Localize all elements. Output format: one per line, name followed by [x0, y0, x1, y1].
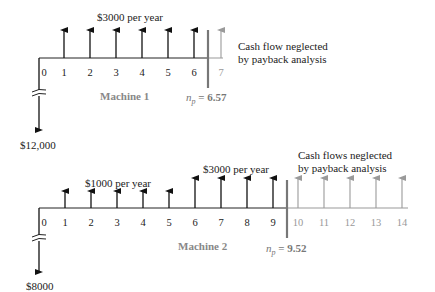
- payback-sub: p: [272, 248, 276, 257]
- payback-value: = 9.52: [278, 242, 306, 254]
- machine1-neglected-note: Cash flow neglected by payback analysis: [238, 40, 328, 66]
- note-line: Cash flows neglected: [298, 149, 392, 162]
- tick-label: 9: [270, 217, 275, 229]
- tick-label: 14: [397, 217, 408, 229]
- tick-label: 5: [165, 67, 170, 79]
- tick-label: 1: [62, 217, 67, 229]
- tick-label: 5: [166, 217, 171, 229]
- payback-sub: p: [192, 97, 196, 106]
- tick-label: 3: [114, 217, 119, 229]
- tick-label: 7: [218, 217, 223, 229]
- tick-label: 10: [293, 217, 304, 229]
- machine2-initial-cost-label: $8000: [26, 280, 54, 292]
- machine2-title: Machine 2: [178, 240, 227, 252]
- tick-label: 4: [139, 67, 144, 79]
- note-line: by payback analysis: [298, 162, 392, 175]
- machine2-neglected-note: Cash flows neglected by payback analysis: [298, 149, 392, 175]
- tick-label: 6: [192, 217, 197, 229]
- machine1-diagram: [32, 30, 223, 130]
- tick-label: 11: [319, 217, 329, 229]
- machine1-payback-label: np = 6.57: [186, 91, 227, 106]
- note-line: Cash flow neglected: [238, 40, 328, 53]
- tick-label: 7: [218, 67, 223, 79]
- machine1-initial-cost-label: $12,000: [20, 139, 56, 151]
- machine2-inflow-label-1000: $1000 per year: [85, 177, 151, 189]
- tick-label: 2: [88, 217, 93, 229]
- tick-label: 6: [191, 67, 196, 79]
- machine2-inflow-label-3000: $3000 per year: [203, 163, 269, 175]
- tick-label: 4: [140, 217, 145, 229]
- note-line: by payback analysis: [238, 53, 328, 66]
- tick-label: 12: [345, 217, 356, 229]
- machine1-title: Machine 1: [100, 90, 149, 102]
- tick-label: 0: [41, 67, 46, 79]
- machine2-payback-label: np = 9.52: [266, 242, 307, 257]
- axis-break-icon: [32, 234, 46, 241]
- tick-label: 1: [61, 67, 66, 79]
- tick-label: 3: [113, 67, 118, 79]
- tick-label: 13: [371, 217, 382, 229]
- tick-label: 0: [41, 217, 46, 229]
- axis-break-icon: [32, 89, 46, 96]
- payback-value: = 6.57: [198, 91, 226, 103]
- machine1-inflow-label: $3000 per year: [97, 11, 163, 23]
- tick-label: 8: [244, 217, 249, 229]
- tick-label: 2: [87, 67, 92, 79]
